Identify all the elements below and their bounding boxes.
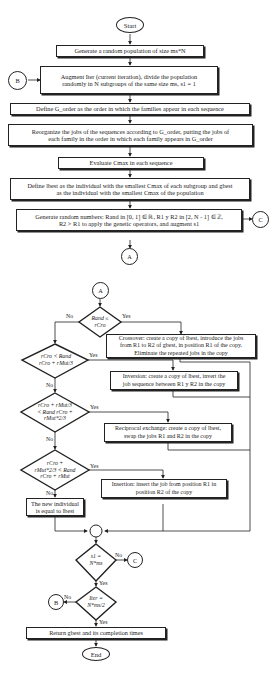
decision-text-line: Iter = xyxy=(89,595,103,602)
decision-d6-text: Iter = N*ms/2 xyxy=(80,595,112,609)
step-text-line1: Reorganize the jobs of the sequences acc… xyxy=(32,128,229,135)
step-text-line2: position R2 of the copy xyxy=(136,489,192,496)
decision-d2-text: rCro < Rand rCro + rMut/3 xyxy=(26,352,86,368)
step-text-line2: randomly in N subgroups of the same size… xyxy=(62,80,196,87)
d2-no-label: No xyxy=(46,382,53,388)
step-text: Generate a random population of size ms*… xyxy=(74,47,185,54)
d4-yes-label: Yes xyxy=(90,463,98,469)
step-text-line1: Crossover: create a copy of lbest, intro… xyxy=(119,335,243,342)
d3-yes-label: Yes xyxy=(90,404,98,410)
step-text-line1: Generate random numbers: Rand in [0, 1] … xyxy=(35,213,223,220)
step-reciprocal-exchange: Reciprocal exchange: create a copy of lb… xyxy=(104,423,232,442)
step-text-line3: Eliminate the repeated jobs in the copy xyxy=(134,350,228,357)
step-generate-random-numbers: Generate random numbers: Rand in [0, 1] … xyxy=(16,209,242,231)
decision-text-line: rCro < Rand xyxy=(41,353,71,360)
step-return-gbest: Return gbest and its completion times xyxy=(26,627,166,639)
decision-text-line: rMut*2/3 xyxy=(44,415,66,422)
connector-b-exit: B xyxy=(48,594,64,610)
d4-no-label: No xyxy=(46,490,53,496)
d1-yes-label: Yes xyxy=(122,313,130,319)
step-inversion: Inversion: create a copy of lbest, inver… xyxy=(110,371,238,390)
connector-c-entry: C xyxy=(252,211,269,228)
decision-text-line: Rand ≤ xyxy=(92,315,109,322)
step-insertion: Insertion: insert the job from position … xyxy=(101,479,227,498)
decision-text-line: rMut*2/3 < Rand xyxy=(35,467,76,474)
step-evaluate-cmax: Evaluate Cmax in each sequence xyxy=(58,157,204,169)
start-terminal: Start xyxy=(116,17,144,33)
step-reorganize-jobs: Reorganize the jobs of the sequences acc… xyxy=(8,124,253,146)
step-text-line2: from R1 to R2 of gbest, in position R1 o… xyxy=(120,342,242,349)
connector-b-entry: B xyxy=(8,71,27,90)
step-text: Evaluate Cmax in each sequence xyxy=(90,159,173,166)
connector-a-entry: A xyxy=(92,282,109,299)
step-text: Define G_order as the order in which the… xyxy=(36,105,224,112)
d1-no-label: No xyxy=(66,313,73,319)
d3-no-label: No xyxy=(46,436,53,442)
d6-no-label: No xyxy=(64,594,71,600)
decision-d3-text: rCro + rMut/3 < Rand rCro + rMut*2/3 xyxy=(22,401,88,423)
connector-c-exit: C xyxy=(127,552,143,568)
decision-text-line: s1 = xyxy=(91,553,102,560)
step-text-line2: is equal to lbest xyxy=(36,507,75,514)
step-text-line1: Define lbest as the individual with the … xyxy=(27,182,232,189)
step-define-lbest-gbest: Define lbest as the individual with the … xyxy=(10,178,250,200)
step-crossover: Crossover: create a copy of lbest, intro… xyxy=(106,334,256,358)
decision-d5-text: s1 = N*ms xyxy=(80,553,112,567)
d5-yes-label: Yes xyxy=(99,580,107,586)
end-terminal: End xyxy=(82,647,110,661)
decision-d1-text: Rand ≤ rCro xyxy=(82,314,118,330)
step-text-line1: Reciprocal exchange: create a copy of lb… xyxy=(115,425,221,432)
decision-text-line: rCro + rMut/3 xyxy=(39,360,73,367)
decision-text-line: N*ms/2 xyxy=(87,602,105,609)
d2-yes-label: Yes xyxy=(89,352,97,358)
step-text-line2: job sequence between R1 y R2 in the copy xyxy=(123,381,225,388)
step-text-line2: R2 > R1 to apply the genetic operators, … xyxy=(59,220,199,227)
step-text-line2: swap the jobs R1 and R2 in the copy xyxy=(124,433,212,440)
step-define-gorder: Define G_order as the order in which the… xyxy=(10,103,250,115)
step-text-line1: The new individual xyxy=(31,500,79,507)
connector-a-exit: A xyxy=(121,248,138,265)
step-text-line2: as the individual with the smallest Cmax… xyxy=(56,189,203,196)
step-text-line1: Augment Iter (current iteration), divide… xyxy=(61,73,198,80)
d5-no-label: No xyxy=(115,552,122,558)
d6-yes-label: Yes xyxy=(99,619,107,625)
step-text: Return gbest and its completion times xyxy=(49,629,143,636)
step-generate-population: Generate a random population of size ms*… xyxy=(56,45,204,57)
decision-text-line: N*ms xyxy=(89,560,102,567)
decision-text-line: < Rand rCro + xyxy=(37,409,72,416)
step-new-individual: The new individual is equal to lbest xyxy=(26,498,84,516)
decision-text-line: rCro xyxy=(94,322,105,329)
decision-text-line: rCro + rMut xyxy=(40,473,69,480)
step-augment-iter: Augment Iter (current iteration), divide… xyxy=(40,66,218,94)
decision-d4-text: rCro + rMut*2/3 < Rand rCro + rMut xyxy=(22,459,88,481)
decision-text-line: rCro + xyxy=(47,460,63,467)
step-text-line1: Inversion: create a copy of lbest, inver… xyxy=(123,373,226,380)
step-text-line2: each family in the order in which each f… xyxy=(48,135,213,142)
step-text-line1: Insertion: insert the job from position … xyxy=(112,481,217,488)
decision-text-line: rCro + rMut/3 xyxy=(38,402,72,409)
